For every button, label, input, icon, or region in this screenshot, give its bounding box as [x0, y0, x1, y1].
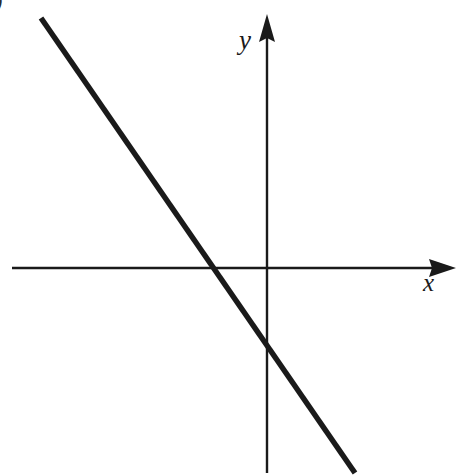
graph-canvas [0, 0, 457, 475]
y-axis [259, 14, 275, 473]
x-axis-label: x [423, 270, 434, 295]
plotted-line [41, 18, 355, 473]
coordinate-plane-figure: ) y x [0, 0, 457, 475]
y-axis-arrow-icon [259, 14, 275, 42]
y-axis-label: y [239, 27, 251, 54]
x-axis [12, 259, 456, 277]
